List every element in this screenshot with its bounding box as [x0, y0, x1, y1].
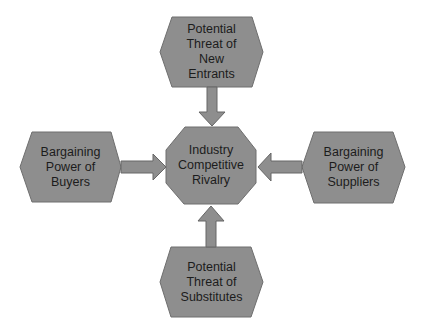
arrow-left-icon — [258, 153, 302, 181]
top-node-label: Potential Threat of New Entrants — [160, 17, 263, 87]
left-node-label: Bargaining Power of Buyers — [20, 132, 121, 202]
bottom-node-label: Potential Threat of Substitutes — [160, 247, 263, 317]
arrow-up-icon — [198, 206, 224, 247]
center-node-label: Industry Competitive Rivalry — [166, 127, 256, 204]
right-node-label: Bargaining Power of Suppliers — [302, 132, 405, 203]
arrow-right-icon — [121, 154, 166, 180]
arrow-down-icon — [199, 87, 225, 126]
five-forces-diagram: Potential Threat of New Entrants Bargain… — [0, 0, 425, 330]
